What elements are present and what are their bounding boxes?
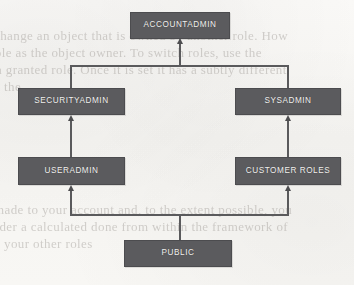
- edge-sysadmin-to-accountadmin-riser: [287, 65, 289, 89]
- edge-public-to-customerroles-riser: [287, 191, 289, 216]
- edge-accountadmin-stem: [179, 44, 181, 66]
- node-label-customer-roles: CUSTOMER ROLES: [246, 167, 330, 175]
- node-label-sysadmin: SYSADMIN: [264, 97, 311, 105]
- diagram-canvas: change an object that is owned by anothe…: [0, 0, 354, 285]
- edge-useradmin-to-securityadmin: [70, 121, 72, 157]
- edge-public-bus: [70, 214, 289, 216]
- arrowhead-into-securityadmin: [68, 115, 74, 121]
- edge-customerroles-to-sysadmin: [287, 121, 289, 157]
- ghost-text-line: role as the object owner. To switch role…: [0, 45, 262, 61]
- edge-securityadmin-to-accountadmin-riser: [70, 65, 72, 89]
- arrowhead-into-sysadmin: [285, 115, 291, 121]
- node-sysadmin[interactable]: SYSADMIN: [235, 88, 341, 115]
- edge-public-stem: [179, 214, 181, 240]
- node-useradmin[interactable]: USERADMIN: [18, 157, 125, 185]
- node-label-accountadmin: ACCOUNTADMIN: [144, 21, 217, 29]
- arrowhead-into-customerroles: [285, 185, 291, 191]
- node-label-securityadmin: SECURITYADMIN: [34, 97, 108, 105]
- ghost-text-line: sider a calculated done from within the …: [0, 219, 288, 235]
- node-public[interactable]: PUBLIC: [124, 240, 232, 267]
- node-label-public: PUBLIC: [162, 249, 195, 257]
- arrowhead-into-useradmin: [68, 185, 74, 191]
- edge-public-to-useradmin-riser: [70, 191, 72, 216]
- node-securityadmin[interactable]: SECURITYADMIN: [18, 88, 125, 115]
- ghost-text-line: your other roles: [4, 236, 93, 252]
- node-customer-roles[interactable]: CUSTOMER ROLES: [235, 157, 341, 185]
- node-accountadmin[interactable]: ACCOUNTADMIN: [130, 12, 230, 39]
- node-label-useradmin: USERADMIN: [44, 167, 98, 175]
